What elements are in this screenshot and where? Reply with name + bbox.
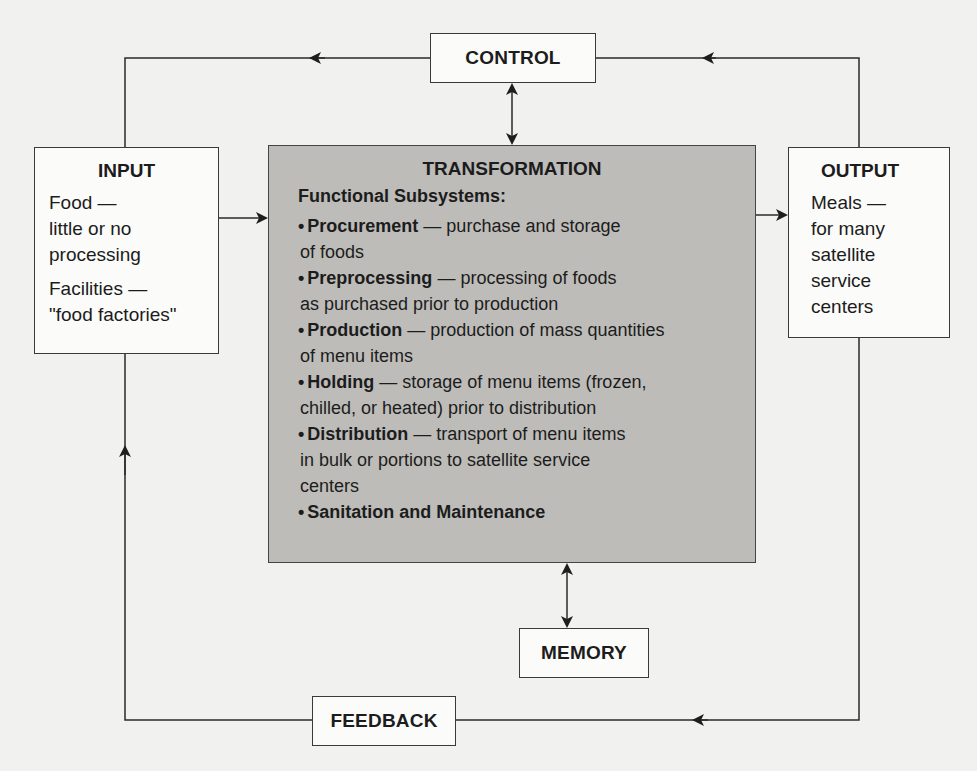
control-box: CONTROL <box>430 33 596 83</box>
subsystem-production: •Production — production of mass quantit… <box>298 317 755 369</box>
subsystem-desc: of foods <box>298 239 755 265</box>
input-line: processing <box>49 242 218 268</box>
subsystem-procurement: •Procurement — purchase and storage of f… <box>298 213 755 265</box>
output-line: Meals — <box>811 190 949 216</box>
subsystem-name: Preprocessing <box>307 268 432 288</box>
input-title: INPUT <box>49 160 218 182</box>
input-facilities-text: Facilities — "food factories" <box>49 276 218 328</box>
control-label: CONTROL <box>465 47 560 69</box>
output-text: Meals — for many satellite service cente… <box>811 190 949 320</box>
subsystem-name: Sanitation and Maintenance <box>307 502 545 522</box>
subsystem-desc: — purchase and storage <box>418 216 620 236</box>
output-box: OUTPUT Meals — for many satellite servic… <box>788 147 950 338</box>
feedback-box: FEEDBACK <box>312 696 456 746</box>
bullet-icon: • <box>298 320 304 340</box>
subsystem-desc: — production of mass quantities <box>402 320 664 340</box>
subsystem-desc: chilled, or heated) prior to distributio… <box>298 395 755 421</box>
bullet-icon: • <box>298 372 304 392</box>
input-line: Facilities — <box>49 276 218 302</box>
bullet-icon: • <box>298 502 304 522</box>
subsystem-desc: in bulk or portions to satellite service <box>298 447 755 473</box>
output-line: satellite <box>811 242 949 268</box>
memory-label: MEMORY <box>541 642 627 664</box>
input-line: little or no <box>49 216 218 242</box>
subsystem-desc: centers <box>298 473 755 499</box>
subsystem-desc: — processing of foods <box>432 268 616 288</box>
control-to-input-line <box>125 58 430 147</box>
subsystem-distribution: •Distribution — transport of menu items … <box>298 421 755 499</box>
output-line: for many <box>811 216 949 242</box>
subsystem-desc: as purchased prior to production <box>298 291 755 317</box>
transformation-box: TRANSFORMATION Functional Subsystems: •P… <box>268 145 756 563</box>
subsystem-desc: — transport of menu items <box>408 424 625 444</box>
subsystem-holding: •Holding — storage of menu items (frozen… <box>298 369 755 421</box>
input-line: "food factories" <box>49 302 218 328</box>
output-title: OUTPUT <box>811 160 949 182</box>
subsystem-sanitation: •Sanitation and Maintenance <box>298 499 755 525</box>
bullet-icon: • <box>298 268 304 288</box>
subsystem-name: Distribution <box>307 424 408 444</box>
input-box: INPUT Food — little or no processing Fac… <box>34 147 219 354</box>
memory-box: MEMORY <box>519 628 649 678</box>
subsystem-name: Holding <box>307 372 374 392</box>
subsystem-desc: — storage of menu items (frozen, <box>374 372 646 392</box>
subsystem-name: Procurement <box>307 216 418 236</box>
transformation-title: TRANSFORMATION <box>298 158 755 180</box>
output-to-control-line <box>596 58 859 147</box>
output-line: centers <box>811 294 949 320</box>
feedback-label: FEEDBACK <box>330 710 437 732</box>
functional-subsystems-heading: Functional Subsystems: <box>298 186 755 207</box>
input-food-text: Food — little or no processing <box>49 190 218 268</box>
input-line: Food — <box>49 190 218 216</box>
output-line: service <box>811 268 949 294</box>
bullet-icon: • <box>298 424 304 444</box>
subsystem-preprocessing: •Preprocessing — processing of foods as … <box>298 265 755 317</box>
subsystem-name: Production <box>307 320 402 340</box>
bullet-icon: • <box>298 216 304 236</box>
subsystem-desc: of menu items <box>298 343 755 369</box>
